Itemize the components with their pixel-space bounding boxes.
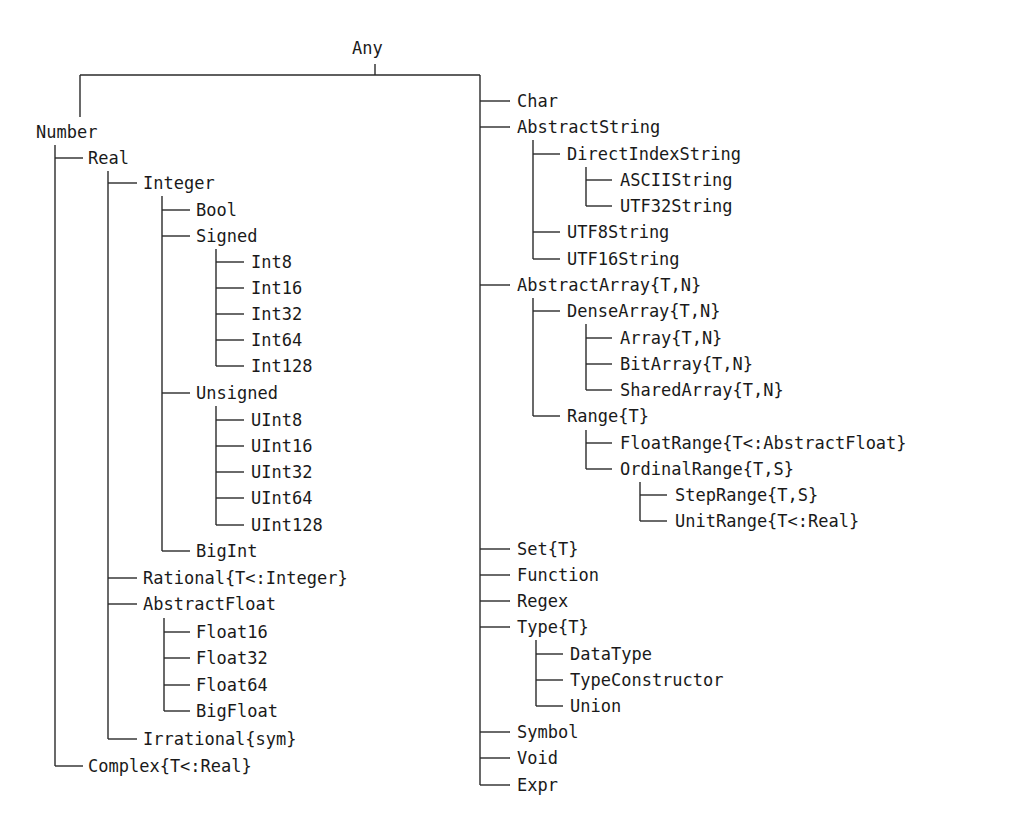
- type-node-utf8string: UTF8String: [567, 222, 669, 242]
- type-node-complex: Complex{T<:Real}: [88, 756, 252, 776]
- type-node-uint8: UInt8: [251, 410, 302, 430]
- type-node-type: Type{T}: [517, 617, 589, 637]
- type-node-uint128: UInt128: [251, 515, 323, 535]
- type-node-int64: Int64: [251, 330, 302, 350]
- type-node-expr: Expr: [517, 775, 558, 795]
- type-node-array: Array{T,N}: [620, 328, 722, 348]
- type-node-asciistring: ASCIIString: [620, 170, 733, 190]
- type-node-bool: Bool: [196, 200, 237, 220]
- type-hierarchy-diagram: AnyNumberRealIntegerBoolSignedInt8Int16I…: [0, 0, 1012, 838]
- type-node-union: Union: [570, 696, 621, 716]
- type-node-int128: Int128: [251, 356, 312, 376]
- type-node-typeconstructor: TypeConstructor: [570, 670, 724, 690]
- type-node-uint16: UInt16: [251, 436, 312, 456]
- type-node-sharedarray: SharedArray{T,N}: [620, 380, 784, 400]
- type-node-densearray: DenseArray{T,N}: [567, 301, 721, 321]
- type-node-set: Set{T}: [517, 539, 578, 559]
- type-node-symbol: Symbol: [517, 722, 578, 742]
- type-node-int8: Int8: [251, 252, 292, 272]
- type-node-any: Any: [352, 38, 383, 58]
- type-node-range: Range{T}: [567, 406, 649, 426]
- type-node-float32: Float32: [196, 648, 268, 668]
- type-node-float64: Float64: [196, 675, 268, 695]
- tree-connectors: [0, 0, 1012, 838]
- type-node-steprange: StepRange{T,S}: [675, 485, 818, 505]
- type-node-uint32: UInt32: [251, 462, 312, 482]
- type-node-utf16string: UTF16String: [567, 249, 680, 269]
- type-node-int16: Int16: [251, 278, 302, 298]
- type-node-function: Function: [517, 565, 599, 585]
- type-node-regex: Regex: [517, 591, 568, 611]
- type-node-integer: Integer: [143, 173, 215, 193]
- type-node-bigfloat: BigFloat: [196, 701, 278, 721]
- type-node-datatype: DataType: [570, 644, 652, 664]
- type-node-void: Void: [517, 748, 558, 768]
- type-node-abstractfloat: AbstractFloat: [143, 594, 276, 614]
- type-node-unitrange: UnitRange{T<:Real}: [675, 511, 859, 531]
- type-node-signed: Signed: [196, 226, 257, 246]
- type-node-bigint: BigInt: [196, 541, 257, 561]
- type-node-ordinalrange: OrdinalRange{T,S}: [620, 459, 794, 479]
- type-node-char: Char: [517, 91, 558, 111]
- type-node-bitarray: BitArray{T,N}: [620, 354, 753, 374]
- type-node-irrational: Irrational{sym}: [143, 729, 297, 749]
- type-node-floatrange: FloatRange{T<:AbstractFloat}: [620, 433, 907, 453]
- type-node-abstractstring: AbstractString: [517, 117, 660, 137]
- type-node-real: Real: [88, 148, 129, 168]
- type-node-float16: Float16: [196, 622, 268, 642]
- type-node-rational: Rational{T<:Integer}: [143, 568, 348, 588]
- type-node-directindexstring: DirectIndexString: [567, 144, 741, 164]
- type-node-unsigned: Unsigned: [196, 383, 278, 403]
- type-node-uint64: UInt64: [251, 488, 312, 508]
- type-node-int32: Int32: [251, 304, 302, 324]
- type-node-abstractarray: AbstractArray{T,N}: [517, 275, 701, 295]
- type-node-utf32string: UTF32String: [620, 196, 733, 216]
- type-node-number: Number: [36, 122, 97, 142]
